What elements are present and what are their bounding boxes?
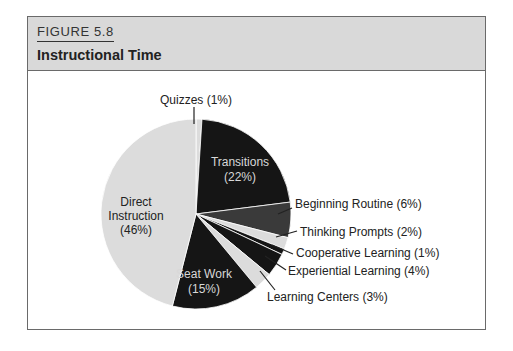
label-seat-work-pct: (15%) [188,282,220,296]
label-seat-work: Seat Work [176,267,233,281]
label-beginning-routine: Beginning Routine (6%) [295,197,422,211]
label-transitions-pct: (22%) [224,170,256,184]
label-experiential-learning: Experiential Learning (4%) [288,264,429,278]
pie-chart: Quizzes (1%) Beginning Routine (6%) Thin… [0,0,513,351]
label-quizzes: Quizzes (1%) [160,93,232,107]
label-direct-pct: (46%) [120,223,152,237]
label-cooperative-learning: Cooperative Learning (1%) [296,246,439,260]
label-direct-instruction: Instruction [108,209,163,223]
label-transitions: Transitions [211,155,269,169]
label-thinking-prompts: Thinking Prompts (2%) [300,225,422,239]
label-direct: Direct [120,195,152,209]
label-learning-centers: Learning Centers (3%) [267,290,388,304]
